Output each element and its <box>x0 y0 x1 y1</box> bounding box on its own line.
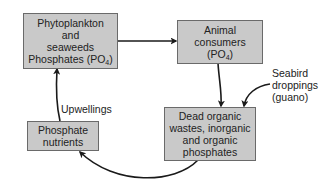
node-producers-line-4: Phosphates (PO4) <box>28 53 112 65</box>
node-producers-line-1: Phytoplankton <box>37 17 104 29</box>
node-dead-line-2: wastes, inorganic <box>169 122 250 134</box>
node-nutrients-line-1: Phosphate <box>38 124 88 136</box>
arrow-consumers-to-dead <box>218 63 221 106</box>
label-guano-line-2: droppings <box>272 79 318 91</box>
label-guano-line-3: (guano) <box>272 91 318 103</box>
node-dead-line-3: and organic <box>183 134 238 146</box>
node-consumers-line-1: Animal <box>204 24 236 36</box>
arrow-guano-to-dead <box>244 84 270 106</box>
label-upwellings: Upwellings <box>61 103 112 115</box>
node-producers: Phytoplankton and seaweeds Phosphates (P… <box>23 13 118 69</box>
node-phosphate-nutrients: Phosphate nutrients <box>27 121 99 151</box>
label-seabird-guano: Seabird droppings (guano) <box>272 67 318 103</box>
node-consumers: Animal consumers (PO4) <box>177 20 263 64</box>
node-producers-line-3: seaweeds <box>47 41 94 53</box>
node-nutrients-line-2: nutrients <box>43 136 83 148</box>
node-producers-line-2: and <box>62 29 80 41</box>
arrow-upwellings <box>56 69 60 121</box>
node-dead-line-1: Dead organic <box>179 110 241 122</box>
node-consumers-line-3: (PO4) <box>207 48 233 60</box>
node-consumers-line-2: consumers <box>194 36 245 48</box>
label-guano-line-1: Seabird <box>272 67 318 79</box>
node-dead-organic-wastes: Dead organic wastes, inorganic and organ… <box>164 107 256 161</box>
node-dead-line-4: phosphates <box>183 146 237 158</box>
